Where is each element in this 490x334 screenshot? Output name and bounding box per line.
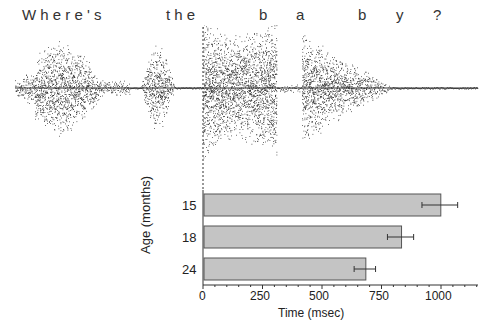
y-tick-24: 24 bbox=[182, 262, 196, 277]
y-axis-label: Age (months) bbox=[138, 176, 153, 254]
bar-age-18 bbox=[204, 226, 402, 248]
reaction-time-bar-chart bbox=[0, 0, 490, 334]
x-axis-label: Time (msec) bbox=[278, 306, 344, 320]
bar-age-15 bbox=[204, 194, 441, 216]
x-tick-1000: 1000 bbox=[425, 289, 452, 303]
y-tick-18: 18 bbox=[182, 230, 196, 245]
bar-age-24 bbox=[204, 258, 366, 280]
x-tick-500: 500 bbox=[309, 289, 329, 303]
x-tick-750: 750 bbox=[369, 289, 389, 303]
y-tick-15: 15 bbox=[182, 198, 196, 213]
x-tick-0: 0 bbox=[199, 289, 206, 303]
x-tick-250: 250 bbox=[250, 289, 270, 303]
